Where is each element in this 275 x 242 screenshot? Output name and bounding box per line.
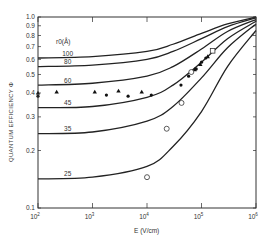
y-tick-label: 0.3 bbox=[26, 113, 35, 120]
filled-circle-marker bbox=[200, 61, 203, 64]
triangle-marker bbox=[93, 90, 97, 94]
y-tick-label: 0.7 bbox=[26, 43, 35, 50]
x-tick-label: 103 bbox=[85, 212, 95, 220]
curves bbox=[38, 17, 256, 179]
filled-circle-marker bbox=[204, 56, 207, 59]
triangle-marker bbox=[54, 90, 58, 94]
x-tick-label: 105 bbox=[194, 212, 204, 220]
triangle-marker bbox=[116, 89, 120, 93]
curve-label: 60 bbox=[64, 77, 72, 84]
curve-label: 100 bbox=[62, 50, 73, 57]
filled-circle-marker bbox=[195, 67, 198, 70]
y-axis-label: QUANTUM EFFICIENCY Φ bbox=[8, 82, 14, 162]
open-circle-marker bbox=[179, 100, 184, 105]
y-tick-label: 0.9 bbox=[26, 22, 35, 29]
filled-circle-marker bbox=[179, 84, 182, 87]
y-tick-label: 0.6 bbox=[26, 56, 35, 63]
open-square-marker bbox=[210, 49, 215, 54]
open-circle-marker bbox=[145, 175, 150, 180]
y-tick-label: 0.1 bbox=[26, 204, 35, 211]
x-axis-label: E (V/cm) bbox=[134, 227, 159, 235]
data-markers bbox=[36, 49, 215, 180]
filled-circle-marker bbox=[127, 95, 130, 98]
filled-circle-marker bbox=[105, 94, 108, 97]
triangle-marker bbox=[140, 90, 144, 94]
legend-title: r0(Å) bbox=[56, 37, 70, 46]
y-tick-label: 0.2 bbox=[26, 147, 35, 154]
open-circle-marker bbox=[189, 70, 194, 75]
filled-circle-marker bbox=[150, 94, 153, 97]
x-tick-label: 102 bbox=[30, 212, 40, 220]
x-tick-label: 106 bbox=[248, 212, 258, 220]
y-tick-label: 0.5 bbox=[26, 71, 35, 78]
curve-label: 35 bbox=[64, 125, 72, 132]
curve-label: 25 bbox=[64, 170, 72, 177]
curve-label: 45 bbox=[64, 99, 72, 106]
filled-circle-marker bbox=[187, 75, 190, 78]
y-tick-label: 0.4 bbox=[26, 89, 35, 96]
curve-label: 80 bbox=[64, 58, 72, 65]
chart: 0.10.20.30.40.50.60.70.80.91.01021031041… bbox=[0, 0, 275, 242]
x-tick-label: 104 bbox=[139, 212, 149, 220]
y-tick-label: 1.0 bbox=[26, 13, 35, 20]
open-circle-marker bbox=[164, 126, 169, 131]
y-tick-label: 0.8 bbox=[26, 32, 35, 39]
